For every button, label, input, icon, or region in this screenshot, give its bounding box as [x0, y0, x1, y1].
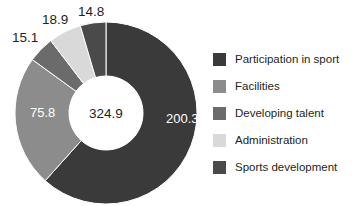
donut-slice-value-label: 14.8 — [78, 4, 104, 19]
legend-item[interactable]: Facilities — [213, 73, 354, 100]
donut-chart-figure: 324.9 200.375.815.118.914.8 Participatio… — [0, 0, 354, 206]
legend-item[interactable]: Sports development — [213, 154, 354, 181]
donut-slice-value-label: 200.3 — [166, 111, 199, 126]
legend-item-label: Sports development — [235, 162, 337, 174]
donut-plot-area: 324.9 200.375.815.118.914.8 — [0, 0, 212, 206]
legend-item[interactable]: Developing talent — [213, 100, 354, 127]
legend-item[interactable]: Administration — [213, 127, 354, 154]
legend-item-label: Participation in sport — [235, 54, 339, 66]
donut-slice-value-label: 15.1 — [12, 30, 38, 45]
legend-swatch-icon — [213, 107, 226, 120]
legend-item-label: Facilities — [235, 81, 280, 93]
legend-item[interactable]: Participation in sport — [213, 46, 354, 73]
legend-item-label: Developing talent — [235, 108, 324, 120]
legend-swatch-icon — [213, 80, 226, 93]
donut-slice-value-label: 75.8 — [30, 105, 55, 120]
chart-legend: Participation in sportFacilitiesDevelopi… — [213, 46, 354, 181]
legend-swatch-icon — [213, 134, 226, 147]
donut-center-total: 324.9 — [89, 106, 123, 121]
legend-swatch-icon — [213, 161, 226, 174]
donut-svg: 324.9 200.375.815.118.914.8 — [0, 0, 212, 206]
legend-item-label: Administration — [235, 135, 308, 147]
legend-swatch-icon — [213, 53, 226, 66]
donut-slice-value-label: 18.9 — [42, 12, 68, 27]
